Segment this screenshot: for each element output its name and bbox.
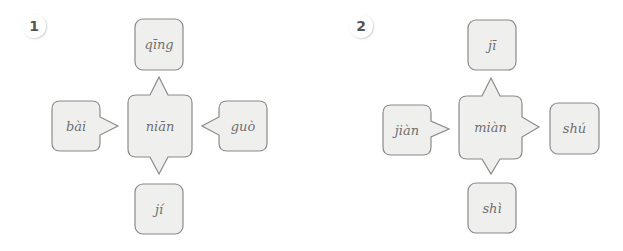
diagram-number-badge: 1 bbox=[22, 14, 46, 38]
word-diagram-1: 1 qīng niān bài guò jí bbox=[0, 0, 311, 251]
bottom-word: shì bbox=[468, 183, 516, 233]
right-word: guò bbox=[219, 101, 267, 151]
left-word: bài bbox=[52, 101, 100, 151]
right-word: shú bbox=[550, 103, 599, 154]
word-diagram-2: 2 jī miàn jiàn shú shì bbox=[311, 0, 622, 251]
top-word: jī bbox=[468, 20, 516, 70]
center-word: miàn bbox=[459, 96, 522, 159]
left-word: jiàn bbox=[383, 105, 431, 155]
bottom-word: jí bbox=[135, 184, 183, 234]
diagram-number-badge: 2 bbox=[349, 14, 373, 38]
center-word: niān bbox=[128, 95, 192, 157]
top-word: qīng bbox=[135, 19, 183, 70]
